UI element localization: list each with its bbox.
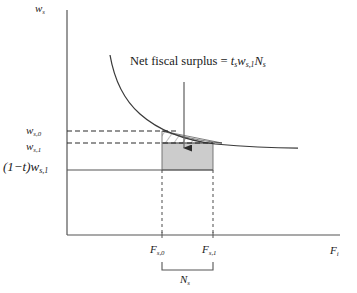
y-axis-label: ws	[35, 2, 45, 14]
w-s-1-label: ws,1	[26, 140, 41, 152]
N-s-label: Ns	[180, 273, 190, 285]
surplus-shaded-rect	[162, 143, 213, 170]
F-s-1-label: Fs,1	[202, 243, 217, 255]
x-axis-label: Fi	[330, 244, 339, 256]
fiscal-surplus-diagram: ws Fi ws,0 ws,1 (1−t)ws,1 Fs,0 Fs,1 Ns N…	[0, 0, 357, 293]
net-fiscal-surplus-annotation: Net fiscal surplus = tsws,1Ns	[130, 54, 266, 69]
F-s-0-label: Fs,0	[150, 243, 165, 255]
N-s-brace	[162, 262, 213, 270]
w-s-0-label: ws,0	[26, 124, 41, 136]
term-N: N	[254, 54, 262, 68]
diagram-canvas	[0, 0, 357, 293]
term-w: w	[237, 54, 245, 68]
after-tax-wage-label: (1−t)ws,1	[3, 159, 48, 175]
